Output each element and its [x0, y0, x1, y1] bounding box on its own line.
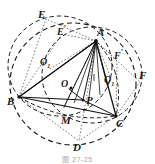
label-a: A	[97, 27, 104, 38]
point-a	[94, 39, 98, 43]
chord-a-eprime	[62, 34, 96, 41]
point-b	[17, 95, 20, 98]
label-b: B	[7, 96, 14, 107]
prime-mark-f: '	[121, 47, 124, 57]
chord-c-fprime	[116, 61, 117, 116]
subscript-one-o1: 1	[47, 63, 50, 69]
label-m: M	[61, 115, 71, 126]
label-c: C	[116, 118, 123, 129]
label-o: O	[61, 79, 68, 89]
prime-mark-e: '	[64, 23, 67, 33]
label-f: F	[139, 70, 146, 81]
point-o	[70, 87, 73, 90]
prime-mark-o1: '	[114, 71, 117, 81]
point-p	[82, 99, 85, 102]
label-p: P	[86, 95, 93, 106]
label-o1-prime: O1'	[104, 72, 117, 87]
subscript-one-o1-prime: 1	[111, 81, 114, 87]
geometry-drawing-canvas	[0, 0, 155, 164]
label-f-prime: F'	[114, 48, 123, 61]
chord-c-d	[79, 116, 116, 141]
label-e-prime: E'	[57, 24, 66, 37]
label-d: D	[73, 142, 81, 153]
chord-a-d	[79, 41, 96, 141]
label-e: E	[38, 9, 45, 20]
chord-c-f	[116, 82, 140, 116]
label-o1: O1	[40, 57, 50, 69]
segment-b-a-inner	[19, 41, 96, 97]
geometry-figure: E E' A F' F O1 O O1' B P M C D 图 27-25	[0, 0, 155, 164]
figure-caption: 图 27-25	[0, 154, 155, 164]
chord-a-e	[46, 19, 96, 41]
